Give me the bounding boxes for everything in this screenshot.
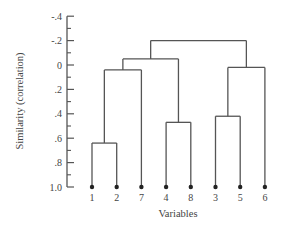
dendrogram-tree (92, 41, 265, 187)
y-tick-label: .6 (55, 133, 63, 144)
leaf-node (164, 185, 168, 189)
x-axis-title: Variables (158, 208, 197, 219)
leaf-label: 2 (114, 192, 119, 203)
y-tick-label: .8 (55, 157, 63, 168)
leaf-node (139, 185, 143, 189)
leaf-node (238, 185, 242, 189)
y-tick-label: 0 (57, 60, 62, 71)
leaf-label: 3 (213, 192, 218, 203)
dendrogram-chart: -.4-.20.2.4.6.81.0 12748356 Variables Si… (0, 0, 281, 233)
leaf-label: 1 (90, 192, 95, 203)
leaf-node (90, 185, 94, 189)
leaf-label: 5 (238, 192, 243, 203)
y-tick-label: .4 (55, 108, 63, 119)
leaf-label: 7 (139, 192, 144, 203)
leaf-node (189, 185, 193, 189)
y-tick-label: -.4 (51, 11, 62, 22)
y-tick-label: .2 (55, 84, 63, 95)
y-axis-title: Similarity (correlation) (14, 52, 26, 150)
leaf-label: 6 (262, 192, 267, 203)
leaf-node (115, 185, 119, 189)
leaf-node (213, 185, 217, 189)
leaf-labels: 12748356 (90, 185, 268, 203)
leaf-label: 4 (164, 192, 169, 203)
leaf-label: 8 (188, 192, 193, 203)
y-tick-label: 1.0 (50, 182, 63, 193)
leaf-node (263, 185, 267, 189)
y-axis: -.4-.20.2.4.6.81.0 (50, 11, 75, 193)
y-tick-label: -.2 (51, 35, 62, 46)
